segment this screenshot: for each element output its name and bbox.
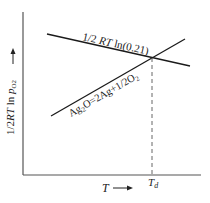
x-axis-arrow-icon xyxy=(113,186,133,191)
svg-text:1/2RT ln pO2: 1/2RT ln pO2 xyxy=(4,79,18,135)
y-axis-label: 1/2RT ln pO2 xyxy=(4,79,18,135)
line2-label: Ag2O=2Ag+1/2O2 xyxy=(67,70,142,121)
diagram-canvas: 1/2 RT ln(0.21) Ag2O=2Ag+1/2O2 1/2RT ln … xyxy=(0,0,210,203)
x-axis-label: T xyxy=(102,181,110,195)
td-label: Td xyxy=(148,176,159,190)
y-axis-arrow-icon xyxy=(11,48,16,64)
line1-label: 1/2 RT ln(0.21) xyxy=(81,30,150,57)
